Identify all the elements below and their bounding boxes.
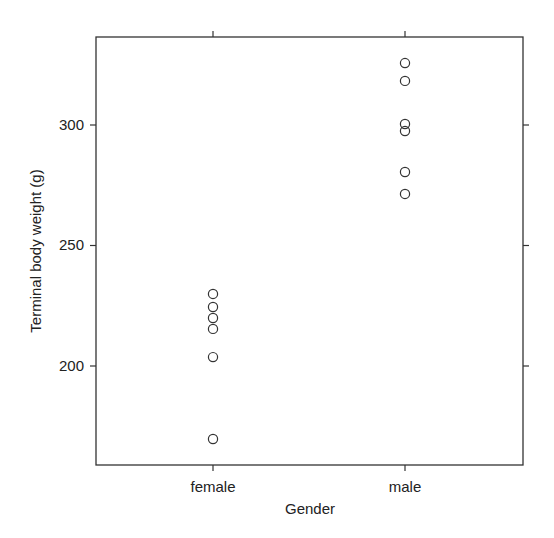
data-point-female bbox=[208, 352, 217, 361]
axis-ticks bbox=[90, 31, 529, 471]
x-tick-label-female: female bbox=[190, 478, 235, 495]
data-point-female bbox=[208, 313, 217, 322]
data-point-male bbox=[400, 167, 409, 176]
x-tick-label-male: male bbox=[389, 478, 422, 495]
data-points bbox=[208, 58, 409, 443]
data-point-male bbox=[400, 126, 409, 135]
data-point-female bbox=[208, 302, 217, 311]
data-point-female bbox=[208, 434, 217, 443]
y-tick-label-300: 300 bbox=[59, 116, 84, 133]
data-point-male bbox=[400, 189, 409, 198]
y-axis-title: Terminal body weight (g) bbox=[27, 169, 44, 332]
data-point-male bbox=[400, 76, 409, 85]
data-point-female bbox=[208, 324, 217, 333]
y-tick-label-250: 250 bbox=[59, 236, 84, 253]
plot-frame bbox=[96, 37, 523, 465]
data-point-male bbox=[400, 58, 409, 67]
x-axis-title: Gender bbox=[285, 500, 335, 517]
y-tick-label-200: 200 bbox=[59, 357, 84, 374]
scatter-chart: 200 250 300 female male Gender Terminal … bbox=[0, 0, 554, 538]
data-point-female bbox=[208, 289, 217, 298]
